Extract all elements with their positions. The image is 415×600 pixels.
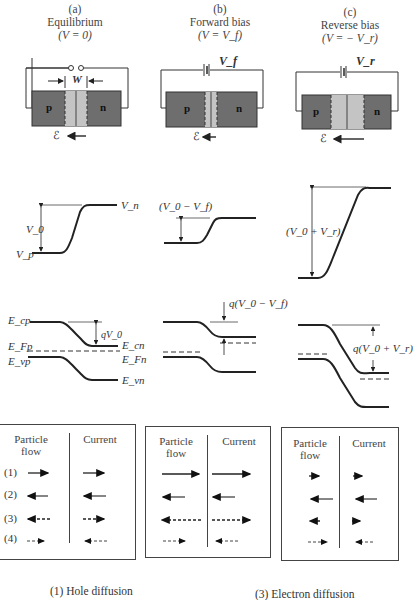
n-region-label: n <box>374 105 380 117</box>
row-label-1: (1) <box>4 466 17 478</box>
field-label-forward: ℰ <box>193 130 200 143</box>
field-label-equilibrium: ℰ <box>53 129 60 142</box>
ecp-label: E_cp <box>8 314 31 326</box>
particle-flow-header: Particle flow <box>7 433 55 457</box>
flow-table-equilibrium: Particle flow Current <box>0 424 136 560</box>
ecn-label: E_cn <box>122 339 145 351</box>
band-barrier-label-reverse: q(V_0 + V_r) <box>353 342 413 354</box>
barrier-label-reverse: (V_0 + V_r) <box>286 225 340 237</box>
evp-label: E_vp <box>8 355 31 367</box>
efp-label: E_Fp <box>8 340 32 352</box>
band-barrier-label-forward: q(V_0 − V_f) <box>229 297 288 309</box>
battery-label-forward: V_f <box>219 54 237 69</box>
current-header: Current <box>214 435 264 447</box>
n-region-label: n <box>236 102 242 114</box>
qv0-label: qV_0 <box>101 329 122 340</box>
row-label-3: (3) <box>4 512 17 524</box>
potential-profile-equilibrium <box>32 205 117 253</box>
evn-label: E_vn <box>122 374 145 386</box>
column-divider <box>339 436 340 548</box>
p-region-label: p <box>184 102 190 114</box>
n-region-label: n <box>100 101 106 113</box>
junction-reverse-bias <box>296 66 398 139</box>
current-header: Current <box>344 437 394 449</box>
column-divider <box>69 433 70 543</box>
potential-profile-forward-bias <box>164 218 256 243</box>
junction-forward-bias <box>161 64 263 137</box>
legend-item-electron-diffusion: (3) Electron diffusion <box>255 588 354 600</box>
v0-label: V_0 <box>26 223 44 235</box>
band-diagram-forward-bias <box>163 302 256 372</box>
particle-flow-header: Particle flow <box>152 435 200 459</box>
row-label-4: (4) <box>4 532 17 544</box>
barrier-label-forward: (V_0 − V_f) <box>159 200 212 212</box>
junction-equilibrium <box>26 58 128 136</box>
battery-label-reverse: V_r <box>356 54 375 69</box>
flow-table-reverse-bias: Particle flow Current <box>281 427 399 561</box>
current-header: Current <box>75 433 125 445</box>
efn-label: E_Fn <box>122 353 146 365</box>
vn-label: V_n <box>121 199 139 211</box>
band-diagram-reverse-bias <box>298 325 389 407</box>
particle-flow-header: Particle flow <box>286 437 334 461</box>
field-label-reverse: ℰ <box>320 132 327 145</box>
depletion-width-label: W <box>72 73 82 85</box>
row-label-2: (2) <box>4 488 17 500</box>
vp-label: V_p <box>16 248 34 260</box>
legend-item-hole-diffusion: (1) Hole diffusion <box>50 585 133 597</box>
column-divider <box>207 435 208 547</box>
p-region-label: p <box>313 105 319 117</box>
flow-table-forward-bias: Particle flow Current <box>145 426 271 558</box>
p-region-label: p <box>46 101 52 113</box>
